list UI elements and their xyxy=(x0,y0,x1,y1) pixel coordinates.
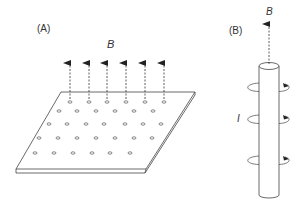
panel-a-label: (A) xyxy=(37,24,50,34)
loop-arrowheads xyxy=(283,83,289,161)
current-label: I xyxy=(237,114,240,124)
rod xyxy=(259,63,279,199)
figure: (A) B (B) B I xyxy=(0,0,305,203)
plate xyxy=(16,92,195,173)
panel-b-label: (B) xyxy=(229,26,242,36)
panel-a-field-label: B xyxy=(107,39,114,49)
panel-b-field-label: B xyxy=(266,7,273,17)
